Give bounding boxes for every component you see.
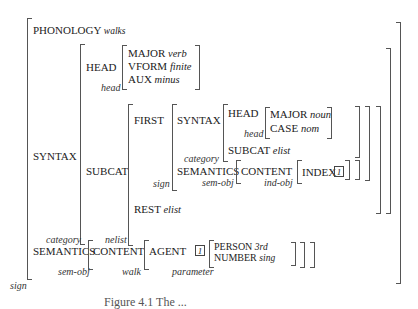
first-label: FIRST: [134, 114, 164, 126]
agent-tag-box: 1: [195, 245, 205, 256]
first-bracket-right: [365, 106, 370, 181]
agent-type-label: parameter: [172, 266, 214, 277]
sign-bracket-left: [27, 18, 32, 280]
vform-feature: VFORM finite: [128, 60, 191, 73]
inner-subcat-feature: SUBCAT elist: [228, 144, 290, 157]
agent-bracket-right: [291, 242, 296, 266]
inner-semantics-label: SEMANTICS: [177, 165, 239, 177]
inner-semantics-bracket-right: [355, 160, 360, 180]
inner-syntax-label: SYNTAX: [177, 114, 221, 126]
sign-type-label: sign: [10, 280, 27, 291]
semantics-type-label: sem-obj: [58, 266, 90, 277]
inner-content-type-label: ind-obj: [264, 177, 293, 188]
subcat-label: SUBCAT: [86, 165, 128, 177]
inner-syntax-type-label: category: [184, 153, 219, 164]
inner-case-feature: CASE nom: [270, 122, 319, 135]
semantics-label: SEMANTICS: [33, 245, 95, 257]
rest-feature: REST elist: [134, 203, 181, 216]
subcat-bracket-left: [128, 104, 133, 246]
semantics-bracket-right: [310, 242, 315, 268]
phonology-value: walks: [104, 26, 126, 36]
inner-content-label: CONTENT: [241, 165, 292, 177]
content-type-label: walk: [122, 266, 141, 277]
index-label: INDEX: [302, 166, 336, 178]
aux-feature: AUX minus: [128, 73, 180, 86]
syntax-label: SYNTAX: [33, 150, 77, 162]
number-feature: NUMBER sing: [214, 252, 275, 264]
inner-head-label: HEAD: [228, 107, 259, 119]
figure-caption: Figure 4.1 The ...: [104, 296, 187, 308]
sign-bracket-right: [396, 22, 401, 284]
inner-head-type-label: head: [244, 128, 263, 139]
head-label: HEAD: [86, 61, 117, 73]
inner-semantics-type-label: sem-obj: [202, 177, 234, 188]
index-tag-box: 1: [334, 166, 344, 177]
syntax-bracket-left: [80, 44, 85, 245]
head-type-label: head: [101, 82, 120, 93]
first-type-label: sign: [153, 178, 170, 189]
index-bracket-right: [345, 160, 350, 180]
phonology-label: PHONOLOGY: [33, 24, 101, 36]
inner-syntax-bracket-right: [355, 106, 360, 158]
agent-label: AGENT: [149, 245, 186, 257]
content-label: CONTENT: [93, 245, 144, 257]
head-bracket-right: [195, 45, 200, 90]
major-feature: MAJOR verb: [128, 47, 187, 60]
content-bracket-right: [300, 242, 305, 268]
phonology-feature: PHONOLOGY walks: [33, 24, 125, 37]
inner-major-feature: MAJOR noun: [270, 108, 331, 121]
syntax-bracket-right: [386, 48, 391, 214]
syntax-type-label: category: [46, 234, 81, 245]
subcat-type-label: nelist: [105, 234, 127, 245]
subcat-bracket-right: [376, 106, 381, 214]
head-bracket-left: [122, 45, 127, 90]
